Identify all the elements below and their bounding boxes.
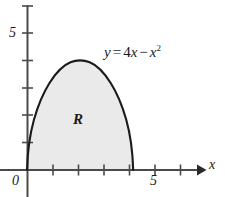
region-label-R: R	[73, 112, 83, 127]
graph-canvas	[0, 0, 225, 197]
origin-label: 0	[12, 174, 19, 188]
equation-coefficient: 4	[123, 44, 131, 60]
equation-label: y=4x−x2	[104, 45, 161, 60]
x-axis-name-label: x	[209, 158, 215, 172]
math-figure: 5 5 0 x R y=4x−x2	[0, 0, 225, 197]
x-axis-arrowhead	[197, 165, 207, 176]
x-axis-tick-label-5: 5	[150, 174, 157, 188]
equation-minus: −	[137, 44, 149, 60]
equation-lhs: y	[104, 44, 111, 60]
equation-equals: =	[111, 44, 123, 60]
y-axis-tick-label-5: 5	[9, 26, 16, 40]
equation-exponent: 2	[156, 43, 161, 53]
